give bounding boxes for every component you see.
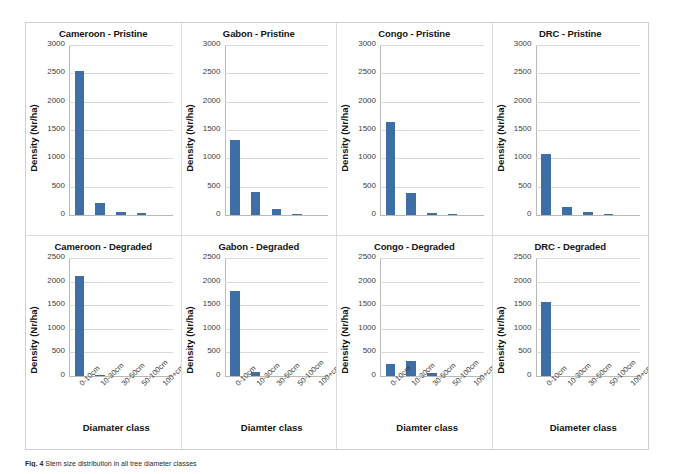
bar-30-50cm — [583, 212, 593, 215]
bar-slot — [266, 258, 287, 376]
bar-slot — [421, 45, 442, 215]
y-tick-label: 1000 — [493, 323, 536, 332]
x-tick: 10-30cm — [245, 378, 266, 418]
panel-title: Cameroon - Pristine — [26, 28, 181, 39]
plot-area: Density (Nr/ha)050010001500200025000-10c… — [26, 254, 181, 449]
y-tick-label: 500 — [337, 181, 380, 190]
panel-title: Cameroon - Degraded — [26, 241, 181, 252]
bar-30-50cm — [272, 209, 282, 215]
y-tick-label: 2000 — [337, 96, 380, 105]
x-tick: 10-30cm — [401, 378, 422, 418]
bar-0-10cm — [386, 122, 396, 215]
y-tick-label: 1500 — [182, 124, 225, 133]
bar-10-30cm — [251, 192, 261, 215]
panel-drc-pristine: DRC - PristineDensity (Nr/ha)05001000150… — [493, 23, 649, 236]
y-tick-label: 0 — [337, 370, 380, 379]
gridline — [225, 215, 329, 216]
bar-0-10cm — [75, 276, 85, 376]
bar-slot — [245, 45, 266, 215]
bar-0-10cm — [541, 302, 551, 376]
bar-slot — [110, 258, 131, 376]
y-tick-label: 500 — [493, 181, 536, 190]
bar-slot — [287, 45, 308, 215]
gridline — [380, 215, 484, 216]
bar-slot — [287, 258, 308, 376]
y-tick-label: 0 — [26, 209, 69, 218]
bar-slot — [536, 258, 557, 376]
bar-slot — [463, 45, 484, 215]
y-tick-label: 2500 — [493, 252, 536, 261]
x-tick: 30-50cm — [110, 378, 131, 418]
panel-drc-degraded: DRC - DegradedDensity (Nr/ha)05001000150… — [493, 236, 649, 449]
y-tick-label: 1000 — [337, 323, 380, 332]
y-tick-label: 3000 — [493, 39, 536, 48]
y-tick-label: 2500 — [337, 67, 380, 76]
x-tick: 10-30cm — [556, 378, 577, 418]
x-tick: 30-50cm — [266, 378, 287, 418]
y-tick-label: 0 — [337, 209, 380, 218]
y-tick-label: 2500 — [182, 67, 225, 76]
y-tick-label: 3000 — [337, 39, 380, 48]
bar-slot — [152, 45, 173, 215]
x-tick: 30-50cm — [421, 378, 442, 418]
bar-50-100cm — [448, 214, 458, 215]
y-tick-label: 1500 — [493, 299, 536, 308]
y-tick-label: 1500 — [26, 299, 69, 308]
bar-slot — [619, 45, 640, 215]
panel-title: DRC - Degraded — [493, 241, 649, 252]
bar-50-100cm — [292, 214, 302, 215]
x-tick: 50-100cm — [287, 378, 308, 418]
bar-50-100cm — [604, 214, 614, 215]
x-axis-title: Diamter class — [212, 422, 333, 433]
x-tick: 100+cm — [307, 378, 328, 418]
bar-10-30cm — [406, 193, 416, 215]
x-axis-title: Diamater class — [56, 422, 177, 433]
x-tick-label-group: 0-10cm10-30cm30-50cm50-100cm100+cm — [225, 378, 329, 418]
y-tick-label: 2000 — [182, 276, 225, 285]
panel-cameroon-degraded: Cameroon - DegradedDensity (Nr/ha)050010… — [26, 236, 182, 449]
bar-series — [380, 258, 484, 376]
panel-title: Congo - Degraded — [337, 241, 492, 252]
bar-0-10cm — [541, 154, 551, 215]
y-tick-label: 2500 — [493, 67, 536, 76]
y-tick-label: 500 — [182, 346, 225, 355]
bar-slot — [69, 45, 90, 215]
bar-slot — [556, 45, 577, 215]
bar-slot — [245, 258, 266, 376]
bar-slot — [266, 45, 287, 215]
bar-30-50cm — [427, 213, 437, 215]
panel-congo-pristine: Congo - PristineDensity (Nr/ha)050010001… — [337, 23, 493, 236]
bar-slot — [69, 258, 90, 376]
bar-slot — [307, 45, 328, 215]
bar-slot — [401, 45, 422, 215]
figure-caption: Fig. 4 Stem size distribution in all tre… — [25, 460, 655, 467]
caption-label: Fig. 4 — [25, 460, 43, 467]
bar-series — [69, 258, 173, 376]
bar-series — [225, 258, 329, 376]
bar-0-10cm — [230, 140, 240, 215]
bar-slot — [131, 258, 152, 376]
x-tick: 50-100cm — [131, 378, 152, 418]
plot-area: Density (Nr/ha)050010001500200025003000 — [26, 41, 181, 235]
bar-slot — [421, 258, 442, 376]
y-tick-label: 3000 — [26, 39, 69, 48]
y-tick-label: 1000 — [26, 323, 69, 332]
gridline — [69, 215, 173, 216]
y-tick-label: 500 — [182, 181, 225, 190]
bar-slot — [131, 45, 152, 215]
panel-gabon-pristine: Gabon - PristineDensity (Nr/ha)050010001… — [182, 23, 338, 236]
plot-area: Density (Nr/ha)050010001500200025000-10c… — [337, 254, 492, 449]
y-tick-label: 500 — [493, 346, 536, 355]
y-tick-label: 1000 — [182, 152, 225, 161]
x-tick-label-group: 0-10cm10-30cm30-50cm50-100cm100+cm — [69, 378, 173, 418]
y-tick-label: 500 — [26, 346, 69, 355]
bar-slot — [401, 258, 422, 376]
x-tick: 0-10cm — [536, 378, 557, 418]
y-tick-label: 2500 — [26, 252, 69, 261]
bar-slot — [380, 258, 401, 376]
x-tick: 10-30cm — [90, 378, 111, 418]
bar-series — [536, 258, 641, 376]
plot-area: Density (Nr/ha)050010001500200025000-10c… — [493, 254, 649, 449]
bar-30-50cm — [116, 212, 126, 215]
axes: 05001000150020002500 — [225, 258, 329, 376]
